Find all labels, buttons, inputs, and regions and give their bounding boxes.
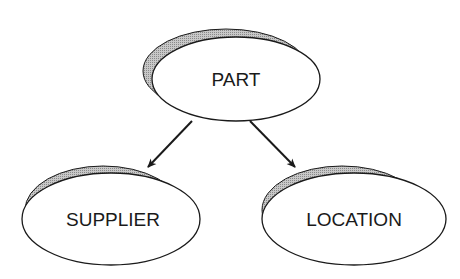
node-location: LOCATION — [262, 166, 446, 265]
diagram-canvas: PART SUPPLIER LOCATION — [0, 0, 460, 279]
node-location-label: LOCATION — [306, 209, 402, 230]
node-part: PART — [143, 29, 320, 121]
edge-part-to-supplier-arrow — [148, 121, 192, 167]
node-supplier-label: SUPPLIER — [66, 209, 160, 230]
node-supplier: SUPPLIER — [22, 166, 200, 265]
edge-part-to-location-arrow — [250, 121, 295, 167]
node-part-label: PART — [212, 69, 261, 90]
